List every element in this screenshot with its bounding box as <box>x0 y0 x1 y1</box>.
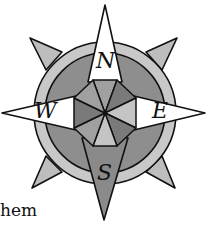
compass-rose: N W E S <box>0 0 211 230</box>
east-label: E <box>151 98 168 123</box>
center-octagon <box>74 80 136 146</box>
west-label: W <box>34 98 59 123</box>
north-label: N <box>95 48 116 73</box>
caption-text-fragment: hem <box>0 200 37 220</box>
south-label: S <box>97 160 112 185</box>
